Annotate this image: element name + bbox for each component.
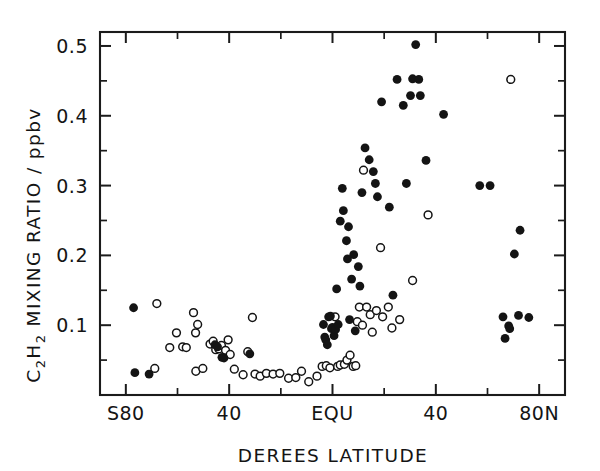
ylabel-species-c: C xyxy=(23,368,44,382)
x-tick-label: 40 xyxy=(217,402,242,424)
data-point-filled xyxy=(332,284,341,293)
data-point-open xyxy=(384,303,392,311)
xlabel-text: DEREES LATITUDE xyxy=(238,445,428,466)
y-axis-tick-labels: 0.10.20.30.40.5 xyxy=(56,35,88,336)
data-point-open xyxy=(507,76,515,84)
data-point-filled xyxy=(339,206,348,215)
data-point-filled xyxy=(402,179,411,188)
data-point-filled xyxy=(345,315,354,324)
data-point-filled xyxy=(323,340,332,349)
data-point-filled xyxy=(338,184,347,193)
data-point-filled xyxy=(326,312,335,321)
data-point-open xyxy=(298,367,306,375)
data-point-filled xyxy=(334,320,343,329)
data-point-filled xyxy=(510,250,519,259)
y-axis-title: C2H2 MIXING RATIO / ppbv xyxy=(23,107,48,382)
y-tick-label: 0.5 xyxy=(56,35,88,57)
data-point-filled xyxy=(349,250,358,259)
data-point-open xyxy=(194,321,202,329)
data-point-open xyxy=(379,313,387,321)
x-tick-label: 80N xyxy=(519,402,559,424)
chart-canvas: S8040EQU4080N 0.10.20.30.40.5 C2H2 MIXIN… xyxy=(0,0,600,471)
data-point-open xyxy=(313,372,321,380)
data-point-filled xyxy=(354,262,363,271)
data-point-filled xyxy=(475,181,484,190)
data-point-filled xyxy=(319,320,328,329)
data-point-open xyxy=(305,378,313,386)
data-point-open xyxy=(377,244,385,252)
x-axis-tick-labels: S8040EQU4080N xyxy=(107,402,559,424)
x-tick-label: EQU xyxy=(311,402,353,424)
data-point-filled xyxy=(358,188,367,197)
ylabel-rest: MIXING RATIO / ppbv xyxy=(23,107,44,333)
data-point-filled xyxy=(336,217,345,226)
data-point-open xyxy=(190,309,198,317)
data-point-filled xyxy=(393,75,402,84)
data-point-filled xyxy=(385,203,394,212)
data-point-filled xyxy=(371,179,380,188)
data-point-open xyxy=(360,166,368,174)
data-point-open xyxy=(373,307,381,315)
data-series-filled-circles xyxy=(129,40,533,378)
data-point-open xyxy=(368,328,376,336)
data-point-filled xyxy=(373,192,382,201)
data-point-open xyxy=(182,344,190,352)
ylabel-sub-2a: 2 xyxy=(33,359,48,369)
data-point-filled xyxy=(514,311,523,320)
data-point-open xyxy=(388,324,396,332)
data-point-open xyxy=(409,277,417,285)
data-point-open xyxy=(192,329,200,337)
data-point-filled xyxy=(344,222,353,231)
data-point-open xyxy=(363,303,371,311)
data-point-open xyxy=(424,211,432,219)
y-tick-label: 0.4 xyxy=(56,105,88,127)
data-point-filled xyxy=(416,91,425,100)
x-tick-label: S80 xyxy=(107,402,145,424)
data-point-filled xyxy=(355,282,364,291)
data-point-open xyxy=(153,300,161,308)
data-point-filled xyxy=(130,368,139,377)
svg-text:C2H2 MIXING RATIO / ppbv: C2H2 MIXING RATIO / ppbv xyxy=(23,107,48,382)
data-point-filled xyxy=(351,326,360,335)
data-point-open xyxy=(239,371,247,379)
data-point-filled xyxy=(406,91,415,100)
data-point-filled xyxy=(389,291,398,300)
data-point-filled xyxy=(365,155,374,164)
data-point-filled xyxy=(524,313,533,322)
y-tick-label: 0.2 xyxy=(56,244,88,266)
data-point-filled xyxy=(422,156,431,165)
data-point-filled xyxy=(486,181,495,190)
data-point-open xyxy=(326,364,334,372)
data-point-filled xyxy=(129,303,138,312)
data-point-filled xyxy=(499,312,508,321)
x-axis-title: DEREES LATITUDE xyxy=(238,445,428,466)
data-point-filled xyxy=(505,324,514,333)
data-point-filled xyxy=(347,275,356,284)
ylabel-sub-2b: 2 xyxy=(33,334,48,344)
scatter-plot-figure: S8040EQU4080N 0.10.20.30.40.5 C2H2 MIXIN… xyxy=(0,0,600,471)
y-tick-label: 0.1 xyxy=(56,314,88,336)
data-point-filled xyxy=(218,353,227,362)
data-point-filled xyxy=(245,349,254,358)
y-tick-label: 0.3 xyxy=(56,175,88,197)
data-point-open xyxy=(396,316,404,324)
data-point-filled xyxy=(516,226,525,235)
data-point-open xyxy=(230,365,238,373)
data-point-open xyxy=(249,314,257,322)
data-point-open xyxy=(199,365,207,373)
data-point-filled xyxy=(414,75,423,84)
data-point-open xyxy=(166,344,174,352)
data-point-open xyxy=(276,369,284,377)
data-point-filled xyxy=(369,167,378,176)
data-point-filled xyxy=(399,101,408,110)
plot-frame xyxy=(100,32,565,395)
data-point-filled xyxy=(145,370,154,379)
ylabel-species-h: H xyxy=(23,343,44,358)
data-point-filled xyxy=(439,110,448,119)
data-point-open xyxy=(359,321,367,329)
data-point-filled xyxy=(377,97,386,106)
data-point-filled xyxy=(361,143,370,152)
data-point-open xyxy=(224,336,232,344)
data-point-filled xyxy=(342,236,351,245)
data-point-open xyxy=(352,362,360,370)
